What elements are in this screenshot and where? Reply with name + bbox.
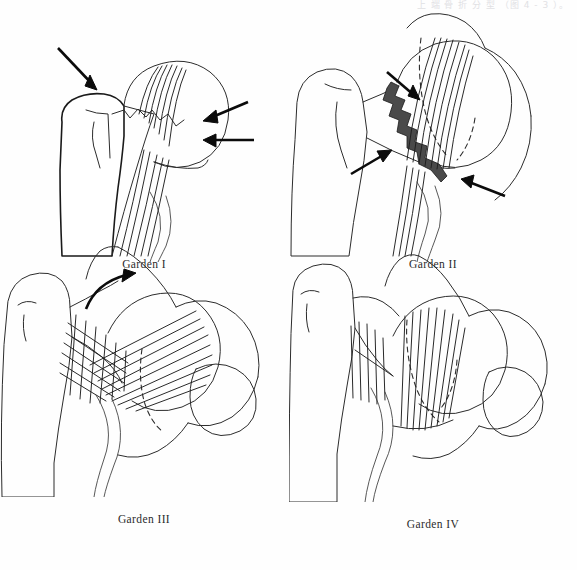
femoral-head-lower-border (393, 420, 453, 429)
femoral-shaft-lateral-curves (365, 388, 393, 502)
femur-shaft-and-trochanter (60, 94, 124, 256)
pelvis-ilium-outline (407, 14, 531, 200)
caption-garden-4: Garden IV (289, 518, 577, 530)
illustration-garden-4 (289, 250, 577, 502)
arrow-middle (351, 150, 392, 174)
arrow-lateral-lower (203, 134, 254, 147)
arrow-superior (58, 48, 97, 90)
figure-page: 上 端 骨 折 分 型 （图 4 - 3 ）。 (0, 0, 577, 570)
femoral-shaft-lateral-curves (94, 395, 121, 497)
illustration-garden-2 (289, 10, 577, 262)
panel-garden-4: Garden IV (289, 250, 577, 535)
femur-shaft-and-trochanter (291, 69, 367, 256)
trabecular-lines-neck (393, 166, 425, 256)
illustration-garden-1 (0, 10, 288, 262)
femur-shaft-and-trochanter (289, 264, 355, 502)
panel-garden-3: Garden III (0, 245, 288, 530)
trabecular-lines-neck (120, 150, 169, 256)
acetabulum-outline (393, 296, 507, 414)
obturator-foramen (190, 364, 256, 436)
pelvis-ilium-outline (385, 255, 547, 459)
trabecular-lines-head (139, 65, 186, 146)
arrow-lateral-upper (203, 102, 248, 123)
arrow-rotation (86, 269, 136, 309)
illustration-garden-3 (0, 245, 288, 497)
arrow-lower (461, 175, 505, 196)
femur-shaft-and-trochanter (1, 273, 72, 497)
caption-garden-3: Garden III (0, 513, 288, 525)
obturator-foramen (483, 367, 543, 437)
acetabular-rim-dashed (140, 349, 162, 431)
